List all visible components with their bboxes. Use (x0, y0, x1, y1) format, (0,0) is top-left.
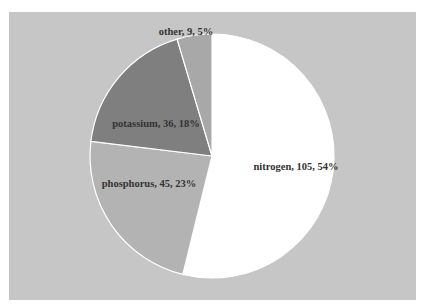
data-label-nitrogen: nitrogen, 105, 54% (254, 161, 339, 172)
data-label-other: other, 9, 5% (159, 26, 213, 37)
data-label-phosphorus: phosphorus, 45, 23% (102, 178, 197, 189)
pie-chart: nitrogen, 105, 54%phosphorus, 45, 23%pot… (0, 0, 426, 308)
data-label-potassium: potassium, 36, 18% (112, 118, 200, 129)
